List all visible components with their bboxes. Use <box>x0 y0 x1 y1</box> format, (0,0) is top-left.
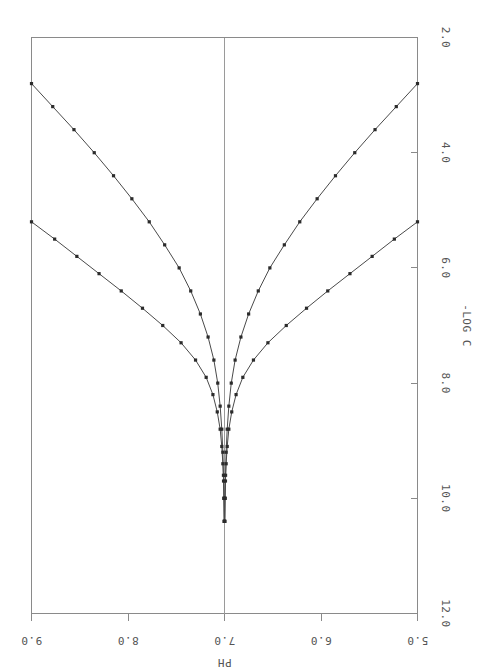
data-point <box>97 272 100 275</box>
data-point <box>334 174 337 177</box>
y-tick-label: 6.0 <box>310 634 331 647</box>
data-point <box>207 335 210 338</box>
data-point <box>148 220 151 223</box>
data-point <box>112 174 115 177</box>
data-point <box>285 324 288 327</box>
data-point <box>252 358 255 361</box>
y-tick-label: 7.0 <box>214 634 235 647</box>
data-point <box>216 410 219 413</box>
data-point <box>305 307 308 310</box>
data-point <box>227 405 230 408</box>
data-point <box>226 445 229 448</box>
data-point <box>178 266 181 269</box>
data-point <box>416 82 419 85</box>
data-point <box>163 243 166 246</box>
data-point <box>161 324 164 327</box>
data-point <box>205 376 208 379</box>
data-point <box>283 243 286 246</box>
data-point <box>266 341 269 344</box>
data-point <box>30 220 33 223</box>
data-point <box>223 520 226 523</box>
data-point <box>219 428 222 431</box>
x-axis-title: -LOG C <box>460 304 473 347</box>
data-point <box>221 451 224 454</box>
data-point <box>212 358 215 361</box>
data-point <box>247 312 250 315</box>
x-tick-label: 12.0 <box>439 599 452 628</box>
data-point <box>241 376 244 379</box>
data-point <box>120 289 123 292</box>
data-point <box>130 197 133 200</box>
data-point <box>189 289 192 292</box>
data-point <box>371 255 374 258</box>
data-point <box>348 272 351 275</box>
x-tick-label: 8.0 <box>439 372 452 393</box>
data-point <box>179 341 182 344</box>
x-tick-label: 4.0 <box>439 142 452 163</box>
data-point <box>226 428 229 431</box>
data-point <box>326 289 329 292</box>
data-point <box>416 220 419 223</box>
data-point <box>230 410 233 413</box>
y-tick-label: 8.0 <box>117 634 138 647</box>
data-point <box>373 128 376 131</box>
data-point <box>395 105 398 108</box>
data-point <box>221 462 224 465</box>
data-point <box>51 105 54 108</box>
data-point <box>216 382 219 385</box>
data-point <box>194 358 197 361</box>
data-point <box>72 128 75 131</box>
data-point <box>225 451 228 454</box>
data-point <box>234 358 237 361</box>
x-tick-label: 10.0 <box>439 484 452 513</box>
data-point <box>199 312 202 315</box>
data-point <box>75 255 78 258</box>
data-point <box>224 479 227 482</box>
data-point <box>141 307 144 310</box>
data-point <box>230 382 233 385</box>
data-point <box>211 393 214 396</box>
y-axis-title: PH <box>217 656 231 669</box>
x-tick-label: 6.0 <box>439 257 452 278</box>
data-point <box>225 462 228 465</box>
data-point <box>353 151 356 154</box>
data-point <box>257 289 260 292</box>
plot-figure: 2.04.06.08.010.012.0 9.08.07.06.05.0 -LO… <box>0 0 479 669</box>
x-tick-label: 2.0 <box>439 27 452 48</box>
figure-background <box>0 0 479 669</box>
data-point <box>219 405 222 408</box>
data-point <box>234 393 237 396</box>
data-point <box>223 497 226 500</box>
data-point <box>30 82 33 85</box>
y-tick-label: 9.0 <box>21 634 42 647</box>
data-point <box>268 266 271 269</box>
data-point <box>298 220 301 223</box>
y-tick-label: 5.0 <box>407 634 428 647</box>
data-point <box>239 335 242 338</box>
data-point <box>53 238 56 241</box>
data-point <box>393 238 396 241</box>
data-point <box>220 445 223 448</box>
data-point <box>224 474 227 477</box>
data-point <box>316 197 319 200</box>
data-point <box>93 151 96 154</box>
